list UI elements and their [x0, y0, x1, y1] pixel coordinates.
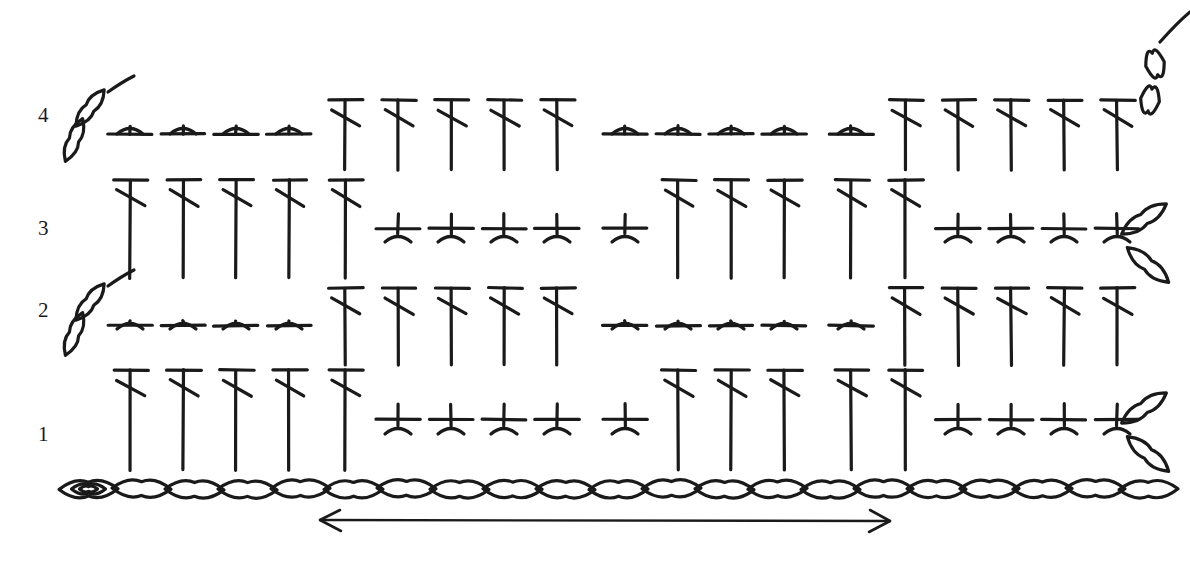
stitch-top-cap — [382, 100, 416, 101]
stitch-crossbar — [762, 325, 806, 326]
stitch-double-crochet — [709, 126, 753, 134]
stitch-double-crochet — [429, 214, 473, 242]
chain-oval — [1066, 479, 1125, 497]
chain-oval — [165, 480, 224, 498]
stitch-double-crochet — [161, 321, 205, 329]
stitch-top-cap — [488, 100, 522, 101]
chain-link — [1118, 387, 1170, 429]
stitch-double-crochet — [108, 321, 152, 329]
stitch-double-crochet — [762, 321, 806, 329]
stitch-top-cap — [1048, 288, 1082, 289]
stitch-post — [557, 100, 558, 170]
stitch-top-cap — [488, 288, 522, 289]
chain-oval — [1118, 198, 1170, 240]
rows-layer — [60, 12, 1190, 477]
stitch-double-crochet — [656, 126, 700, 135]
chain-tail — [1160, 12, 1190, 42]
chain-link — [430, 481, 489, 499]
crochet-chart-canvas: 1234 — [0, 0, 1190, 566]
stitch-slash — [223, 380, 251, 396]
chain-link — [1138, 85, 1162, 115]
turning-chain-row-2 — [60, 270, 134, 358]
stitch-treble — [114, 180, 148, 279]
stitch-treble — [329, 180, 363, 278]
stitch-double-crochet — [603, 214, 647, 242]
stitch-treble — [662, 180, 696, 278]
stitch-crossbar — [1095, 228, 1139, 229]
chain-link — [589, 480, 648, 498]
row-3 — [114, 180, 1173, 288]
stitch-post — [678, 370, 679, 470]
stitch-fork-foot — [1104, 429, 1130, 435]
chain-link — [536, 480, 595, 498]
chain-link — [218, 480, 277, 498]
stitch-treble — [273, 370, 307, 470]
stitch-treble — [1048, 288, 1082, 366]
stitch-double-crochet — [829, 321, 874, 329]
stitch-top-cap — [995, 100, 1029, 101]
stitch-double-crochet — [214, 321, 258, 329]
stitch-group-treble-tall — [329, 288, 576, 366]
stitch-double-crochet — [709, 321, 752, 329]
chain-link — [324, 481, 383, 499]
row-number-label-4: 4 — [38, 105, 49, 126]
stitch-double-crochet — [108, 126, 152, 134]
foundation-chain — [59, 479, 1178, 498]
stitch-treble — [889, 100, 923, 170]
stitch-crossbar — [656, 134, 700, 135]
stitch-treble — [220, 370, 255, 471]
chain-tail — [108, 76, 134, 92]
chain-link — [1013, 480, 1072, 498]
stitch-post — [183, 321, 184, 322]
chain-oval — [1119, 480, 1178, 498]
chain-link — [1118, 198, 1170, 240]
chain-link — [1123, 431, 1173, 476]
stitch-double-crochet — [829, 126, 873, 134]
stitch-diagram-svg — [0, 0, 1190, 566]
stitch-post — [958, 288, 959, 365]
stitch-fork-foot — [438, 237, 464, 243]
stitch-double-crochet — [1042, 404, 1086, 434]
stitch-group-treble-tall — [889, 100, 1135, 171]
row-1 — [114, 370, 1173, 477]
stitch-treble — [942, 288, 976, 365]
stitch-group-treble-tall — [114, 180, 363, 279]
stitch-treble — [488, 100, 522, 170]
stitch-post — [130, 180, 131, 278]
stitch-crossbar — [267, 325, 311, 326]
stitch-post — [851, 370, 852, 470]
stitch-treble — [889, 180, 924, 278]
stitch-fork-foot — [998, 237, 1024, 243]
row-number-label-3: 3 — [38, 218, 49, 239]
stitch-double-crochet — [762, 126, 807, 134]
stitch-treble — [835, 370, 869, 470]
stitch-treble — [768, 370, 803, 470]
chain-oval — [960, 480, 1019, 497]
turning-chain-row-3 — [1118, 198, 1173, 287]
stitch-double-crochet — [603, 126, 647, 134]
stitch-fork-foot — [544, 237, 570, 243]
stitch-treble — [435, 288, 469, 365]
stitch-double-crochet — [535, 214, 580, 242]
stitch-double-crochet — [535, 404, 580, 434]
stitch-double-crochet — [376, 404, 420, 434]
stitch-treble — [768, 180, 802, 278]
chain-oval — [907, 480, 966, 498]
chain-oval — [1123, 431, 1173, 476]
stitch-fork-foot — [544, 429, 570, 435]
stitch-double-crochet — [429, 404, 473, 434]
stitch-post — [731, 321, 732, 322]
stitch-post — [398, 214, 399, 234]
chain-link — [907, 480, 966, 498]
stitch-double-crochet — [656, 321, 700, 329]
row-number-label-2: 2 — [38, 300, 49, 321]
stitch-top-cap — [1101, 288, 1135, 289]
stitch-double-crochet — [603, 321, 647, 329]
stitch-treble — [1048, 100, 1082, 170]
chain-link — [695, 480, 754, 498]
stitch-double-crochet — [936, 404, 981, 434]
stitch-treble — [995, 100, 1029, 171]
chain-link — [60, 116, 89, 163]
chain-oval — [60, 116, 89, 163]
chain-oval — [60, 310, 89, 357]
